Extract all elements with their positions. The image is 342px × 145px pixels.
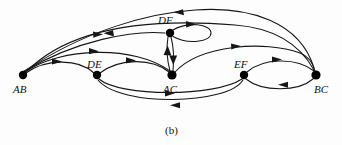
figure-panel: AB DE DF AC EF BC (b) [0, 0, 342, 145]
directed-graph-diagram: AB DE DF AC EF BC (b) [0, 0, 342, 145]
node-label-DE: DE [86, 58, 102, 70]
arrowhead-BC-to-AB [174, 9, 185, 15]
node-label-AC: AC [162, 83, 178, 95]
node-label-AB: AB [12, 83, 27, 95]
arrowhead-DE-to-AC [126, 57, 136, 63]
edge-DE-to-AC [100, 62, 169, 73]
node-EF[interactable] [240, 71, 248, 79]
arrowhead-DF-self-loop [186, 21, 196, 27]
edge-BC-to-EF [246, 79, 313, 89]
arrowhead-DF-to-AC [169, 55, 177, 65]
node-AB[interactable] [19, 71, 27, 79]
arrowhead-AC-to-DF [164, 46, 172, 56]
node-label-BC: BC [314, 83, 329, 95]
node-BC[interactable] [311, 70, 320, 79]
node-AC[interactable] [167, 70, 176, 79]
node-DE[interactable] [93, 71, 101, 79]
arrowhead-EF-to-BC [272, 57, 282, 63]
edge-EF-to-BC [247, 61, 314, 72]
arrowhead-EF-to-DE [170, 102, 180, 108]
figure-caption: (b) [165, 124, 178, 137]
arrowhead-AC-to-BC [231, 43, 241, 49]
edge-DF-self-loop [172, 25, 211, 42]
arrowhead-AB-to-DE [52, 59, 62, 65]
node-DF[interactable] [166, 29, 174, 37]
node-label-EF: EF [233, 58, 248, 70]
arrowhead-BC-to-EF [278, 82, 288, 88]
node-label-DF: DF [157, 14, 173, 26]
arrowhead-AB-to-AC [89, 48, 99, 54]
edge-DF-to-AC [171, 37, 174, 71]
